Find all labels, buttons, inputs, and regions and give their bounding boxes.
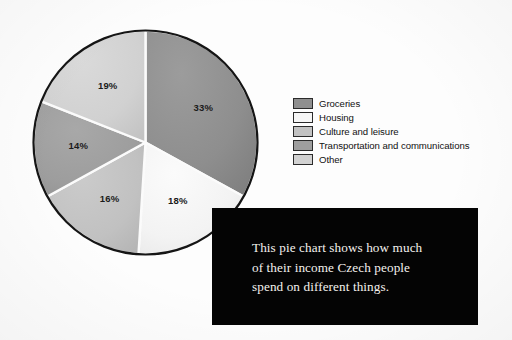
legend-item-transportation-and-communications[interactable]: Transportation and communications <box>293 139 498 153</box>
legend-item-groceries[interactable]: Groceries <box>293 97 498 111</box>
pie-value-label-other: 19% <box>98 80 118 91</box>
legend-label-transportation-and-communications: Transportation and communications <box>319 140 470 151</box>
caption-line-1: This pie chart shows how much <box>252 238 462 258</box>
legend-item-culture-and-leisure[interactable]: Culture and leisure <box>293 125 498 139</box>
legend-label-housing: Housing <box>319 112 354 123</box>
pie-value-label-transportation-and-communications: 14% <box>69 140 89 151</box>
legend-label-groceries: Groceries <box>319 98 360 109</box>
pie-value-label-groceries: 33% <box>194 102 214 113</box>
page-canvas: 33%18%16%14%19% Groceries Housing Cultur… <box>0 0 512 340</box>
legend-swatch-other <box>293 154 313 165</box>
caption-box: This pie chart shows how much of their i… <box>212 208 478 325</box>
chart-legend: Groceries Housing Culture and leisure Tr… <box>293 97 498 167</box>
legend-swatch-housing <box>293 112 313 123</box>
caption-line-2: of their income Czech people <box>252 258 462 278</box>
legend-label-other: Other <box>319 154 343 165</box>
legend-item-housing[interactable]: Housing <box>293 111 498 125</box>
pie-value-label-culture-and-leisure: 16% <box>100 193 120 204</box>
legend-label-culture-and-leisure: Culture and leisure <box>319 126 399 137</box>
caption-line-3: spend on different things. <box>252 277 462 297</box>
legend-swatch-transportation-and-communications <box>293 140 313 151</box>
legend-swatch-groceries <box>293 98 313 109</box>
legend-item-other[interactable]: Other <box>293 153 498 167</box>
legend-swatch-culture-and-leisure <box>293 126 313 137</box>
pie-value-label-housing: 18% <box>168 195 188 206</box>
caption-text: This pie chart shows how much of their i… <box>252 238 462 297</box>
